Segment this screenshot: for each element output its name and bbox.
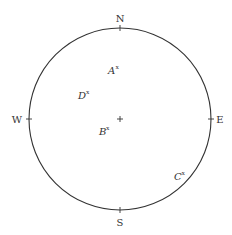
svg-text:D: D	[77, 90, 86, 101]
point-c: C x	[174, 169, 186, 182]
point-d: D x	[77, 88, 90, 101]
svg-text:x: x	[182, 169, 186, 176]
svg-text:A: A	[107, 65, 115, 76]
east-label: E	[216, 114, 223, 125]
svg-text:x: x	[106, 124, 110, 131]
zenith-center-mark	[117, 116, 123, 122]
south-label: S	[117, 217, 124, 228]
point-a: A x	[107, 63, 120, 76]
point-b: B x	[98, 124, 110, 137]
compass-diagram: N S W E A x D x B x C x	[0, 0, 232, 235]
west-label: W	[12, 114, 23, 125]
svg-text:x: x	[86, 88, 90, 95]
north-label: N	[116, 13, 125, 24]
svg-text:x: x	[116, 63, 120, 70]
